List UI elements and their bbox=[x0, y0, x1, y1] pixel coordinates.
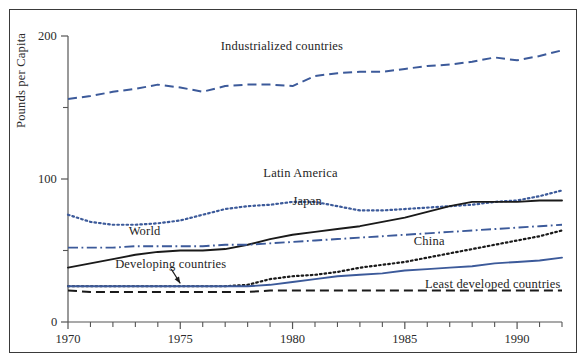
series-label-latin-america: Latin America bbox=[263, 166, 337, 181]
y-tick-label-100: 100 bbox=[38, 172, 57, 187]
x-tick-label-1970: 1970 bbox=[56, 332, 81, 347]
series-label-industrialized-countries: Industrialized countries bbox=[221, 39, 343, 54]
x-tick-label-1990: 1990 bbox=[505, 332, 530, 347]
series-label-developing-countries: Developing countries bbox=[115, 257, 226, 272]
y-tick-label-200: 200 bbox=[38, 29, 57, 44]
series-label-china: China bbox=[414, 234, 445, 249]
chart-plot-area bbox=[0, 0, 588, 364]
x-tick-label-1985: 1985 bbox=[392, 332, 417, 347]
series-label-least-developed-countries: Least developed countries bbox=[425, 277, 561, 292]
chart-figure: Pounds per Capita 200 100 0 1970 1975 19… bbox=[0, 0, 588, 364]
x-tick-label-1980: 1980 bbox=[280, 332, 305, 347]
series-label-world: World bbox=[129, 224, 161, 239]
x-tick-label-1975: 1975 bbox=[168, 332, 193, 347]
series-line-industrialized-countries bbox=[68, 50, 562, 99]
y-tick-label-0: 0 bbox=[51, 315, 57, 330]
series-label-japan: Japan bbox=[293, 194, 322, 209]
developing-countries-arrow-head bbox=[175, 277, 181, 284]
